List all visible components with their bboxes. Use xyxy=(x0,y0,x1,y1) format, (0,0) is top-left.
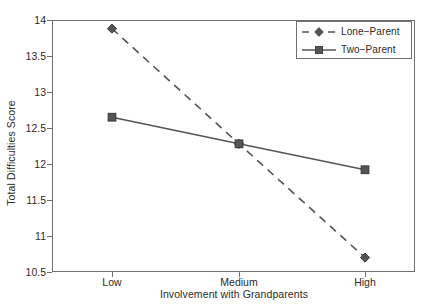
x-tick-label-medium: Medium xyxy=(199,276,279,288)
y-tick-mark-13-5 xyxy=(47,56,52,57)
legend-label-lone-parent: Lone−Parent xyxy=(341,26,400,37)
y-tick-mark-10-5 xyxy=(47,272,52,273)
y-tick-mark-11-5 xyxy=(47,200,52,201)
chart-figure: Total Difficulties Score Involvement wit… xyxy=(0,0,432,306)
y-tick-label-11-5: 11.5 xyxy=(8,194,46,206)
y-tick-label-12-5: 12.5 xyxy=(8,122,46,134)
x-tick-label-low: Low xyxy=(72,276,152,288)
legend-sample-solid-square xyxy=(297,41,341,59)
y-axis-label: Total Difficulties Score xyxy=(0,0,22,306)
y-tick-mark-11 xyxy=(47,236,52,237)
y-tick-label-11: 11 xyxy=(8,230,46,242)
legend: Lone−Parent Two−Parent xyxy=(296,21,412,59)
legend-sample-dashed-diamond xyxy=(297,23,341,41)
y-tick-label-13-5: 13.5 xyxy=(8,50,46,62)
legend-entry-two-parent: Two−Parent xyxy=(297,40,413,59)
x-axis-label: Involvement with Grandparents xyxy=(52,288,416,300)
y-tick-mark-14 xyxy=(47,20,52,21)
y-tick-label-12: 12 xyxy=(8,158,46,170)
legend-label-two-parent: Two−Parent xyxy=(341,44,396,55)
y-tick-label-10-5: 10.5 xyxy=(8,266,46,278)
y-tick-label-13: 13 xyxy=(8,86,46,98)
y-tick-mark-12 xyxy=(47,164,52,165)
x-tick-label-high: High xyxy=(325,276,405,288)
legend-entry-lone-parent: Lone−Parent xyxy=(297,22,413,41)
y-tick-mark-12-5 xyxy=(47,128,52,129)
y-tick-mark-13 xyxy=(47,92,52,93)
y-tick-label-14: 14 xyxy=(8,14,46,26)
